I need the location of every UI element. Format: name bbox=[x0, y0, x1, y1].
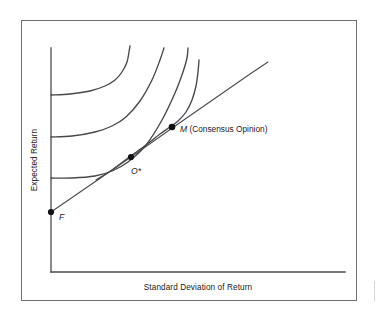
point-m-label: M (Consensus Opinion) bbox=[180, 124, 268, 134]
point-o-star-marker bbox=[128, 154, 134, 160]
indifference-curve-high bbox=[51, 46, 130, 95]
chart-canvas: F O* M (Consensus Opinion) Expected Retu… bbox=[0, 0, 385, 323]
point-m-marker bbox=[169, 124, 176, 131]
indifference-curve-mid bbox=[51, 48, 164, 137]
capital-market-line bbox=[51, 62, 268, 212]
point-m-description: (Consensus Opinion) bbox=[187, 124, 267, 134]
y-axis-title: Expected Return bbox=[30, 128, 39, 191]
point-f-label: F bbox=[59, 212, 65, 222]
x-axis-title: Standard Deviation of Return bbox=[144, 283, 253, 292]
figure-root: F O* M (Consensus Opinion) Expected Retu… bbox=[0, 0, 385, 323]
indifference-curve-tangent bbox=[51, 48, 188, 178]
point-f-marker bbox=[48, 209, 54, 215]
point-o-star-label: O* bbox=[131, 166, 142, 176]
